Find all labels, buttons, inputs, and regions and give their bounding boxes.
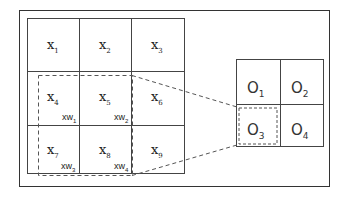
pooling-window-dashed-rect [39,76,133,176]
connector-top-line [132,76,237,108]
connector-bottom-line [132,145,237,176]
dashed-connectors [0,0,345,201]
output-highlight-dashed-rect [239,108,277,144]
